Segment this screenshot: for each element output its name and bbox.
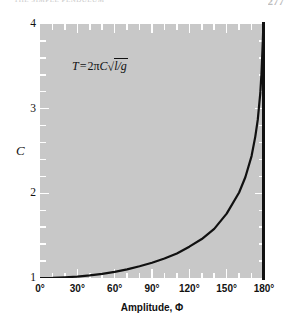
equation-variable: C — [100, 59, 108, 73]
x-tick-label-30°: 30° — [57, 283, 97, 294]
equation-coefficient: 2π — [88, 59, 100, 73]
x-tick-label-120°: 120° — [169, 283, 209, 294]
equation-radicand: l/g — [114, 58, 128, 73]
x-tick-label-150°: 150° — [207, 283, 247, 294]
x-tick-label-60°: 60° — [95, 283, 135, 294]
equation-radical-sign: √ — [108, 60, 115, 74]
x-tick-label-0°: 0° — [20, 283, 60, 294]
y-tick-label-1: 1 — [2, 271, 36, 283]
y-axis-tick-labels: 1234 — [0, 0, 36, 322]
y-tick-label-2: 2 — [2, 186, 36, 198]
equation-lhs: T — [72, 59, 79, 73]
pendulum-period-chart: T = 2πC√l/g 1234 C 0°30°60°90°120°150°18… — [0, 0, 292, 322]
x-axis-title: Amplitude, Φ — [40, 302, 264, 317]
y-tick-label-3: 3 — [2, 102, 36, 114]
x-tick-label-90°: 90° — [132, 283, 172, 294]
equation-annotation: T = 2πC√l/g — [72, 59, 128, 74]
equation-equals: = — [80, 59, 87, 73]
y-tick-label-4: 4 — [2, 17, 36, 29]
y-axis-title: C — [16, 143, 25, 159]
x-tick-label-180°: 180° — [244, 283, 284, 294]
